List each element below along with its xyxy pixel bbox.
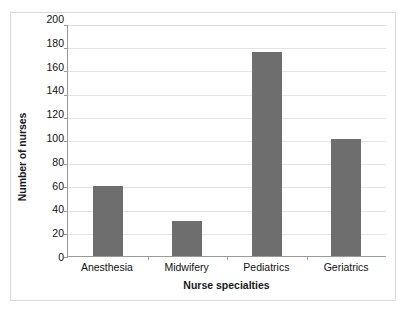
y-axis-tick-label: 160 (31, 61, 64, 73)
x-axis-tick-label: Pediatrics (227, 261, 307, 277)
y-axis-tick-label: 20 (31, 227, 64, 239)
bar-chart-figure: Number of nurses 20018016014012010080604… (10, 12, 396, 301)
bar-slot (307, 25, 387, 256)
y-axis-tick-labels: 200180160140120100806040200 (31, 19, 64, 257)
x-axis-tick-mark (148, 256, 149, 260)
bar-slot (148, 25, 228, 256)
bars-container (68, 25, 386, 256)
y-axis-tick-label: 60 (31, 180, 64, 192)
x-axis-tick-label: Anesthesia (67, 261, 147, 277)
y-axis-tick-label: 80 (31, 156, 64, 168)
y-axis-tick-label: 140 (31, 84, 64, 96)
y-axis-tick-mark (64, 257, 68, 258)
bar-geriatrics[interactable] (331, 139, 361, 256)
y-axis-tick-label: 0 (31, 251, 64, 263)
x-axis-tick-labels: AnesthesiaMidwiferyPediatricsGeriatrics (67, 261, 386, 277)
bar-anesthesia[interactable] (93, 186, 123, 256)
bar-midwifery[interactable] (172, 221, 202, 256)
y-axis-tick-label: 200 (31, 13, 64, 25)
x-axis-title: Nurse specialties (67, 279, 386, 291)
bar-pediatrics[interactable] (252, 52, 282, 256)
x-axis-tick-mark (307, 256, 308, 260)
y-axis-title-label: Number of nurses (16, 112, 28, 200)
bar-slot (68, 25, 148, 256)
plot-area (67, 25, 386, 257)
x-axis-tick-label: Midwifery (147, 261, 227, 277)
y-axis-tick-label: 180 (31, 37, 64, 49)
x-axis-tick-mark (227, 256, 228, 260)
y-axis-tick-label: 100 (31, 132, 64, 144)
y-axis-tick-label: 40 (31, 203, 64, 215)
y-axis-tick-label: 120 (31, 108, 64, 120)
x-axis-tick-label: Geriatrics (306, 261, 386, 277)
bar-slot (227, 25, 307, 256)
y-axis-title: Number of nurses (13, 13, 31, 300)
